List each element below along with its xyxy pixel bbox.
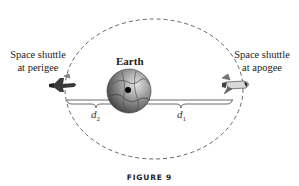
space-shuttle-icon-perigee (49, 74, 76, 92)
earth-globe-icon (107, 69, 151, 113)
perigee-label: Space shuttle at perigee (2, 48, 74, 74)
perigee-label-line1: Space shuttle (2, 48, 74, 61)
distance-label-d2: d2 (91, 108, 100, 123)
earth-label: Earth (116, 55, 144, 67)
d2-subscript: 2 (97, 115, 101, 123)
figure-caption: FIGURE 9 (0, 173, 299, 182)
perigee-label-line2: at perigee (2, 61, 74, 74)
apogee-label-line1: Space shuttle (226, 48, 298, 61)
apogee-label: Space shuttle at apogee (226, 48, 298, 74)
space-shuttle-icon-apogee (222, 74, 249, 94)
distance-label-d1: d1 (177, 108, 186, 123)
apogee-label-line2: at apogee (226, 61, 298, 74)
orbit-ellipse (65, 19, 243, 159)
orbit-diagram (0, 0, 299, 186)
d1-subscript: 1 (183, 115, 187, 123)
